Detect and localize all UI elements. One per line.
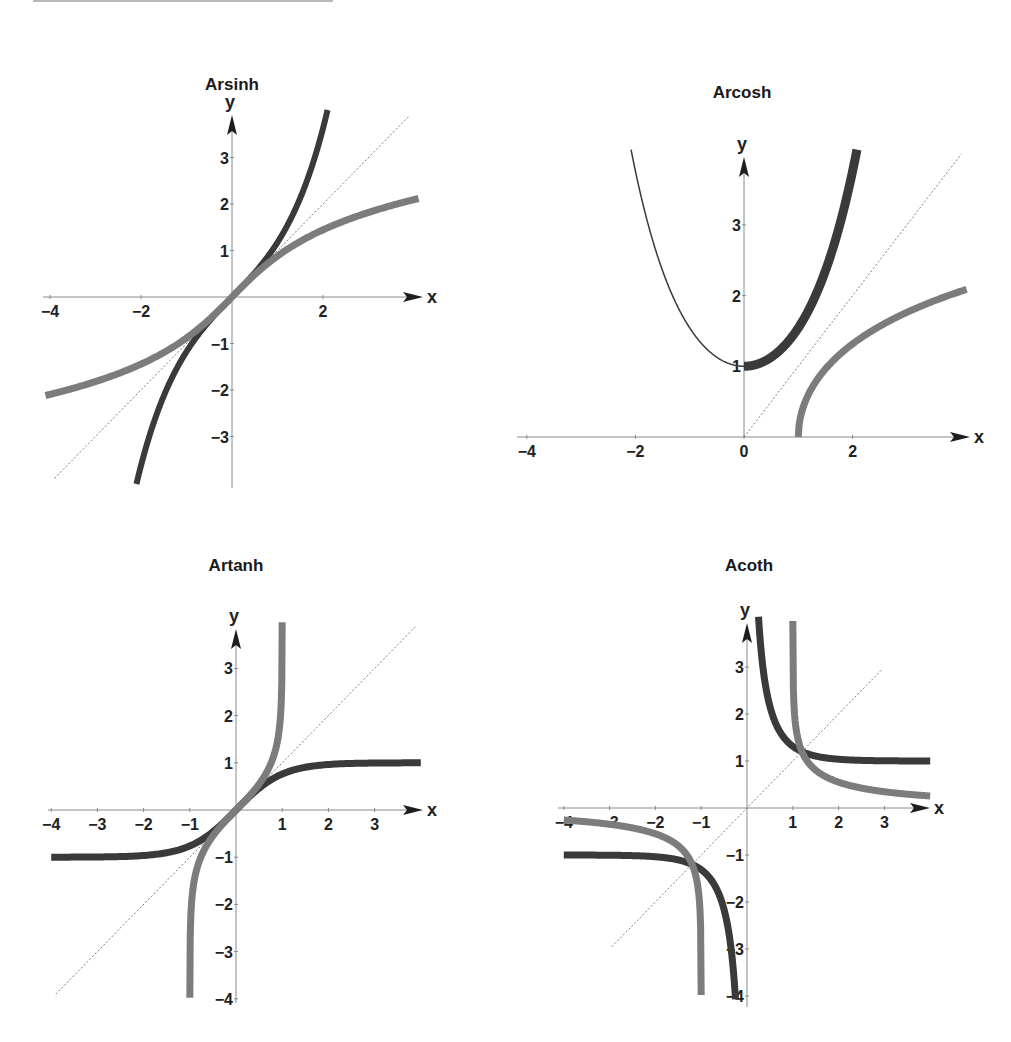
x-tick-label: 1 — [788, 814, 797, 831]
y-tick-label: 1 — [735, 753, 744, 770]
panel-title: Artanh — [209, 556, 264, 575]
y-tick-label: 3 — [732, 217, 741, 234]
curve-coth — [759, 617, 931, 761]
panel-artanh: xy−4−3−2−1123321−1−2−3−4Artanh — [42, 556, 437, 1008]
panel-title: Arsinh — [205, 75, 259, 94]
y-tick-label: −4 — [215, 991, 233, 1008]
y-tick-label: −1 — [211, 336, 229, 353]
y-tick-label: 1 — [224, 755, 233, 772]
x-tick-label: 2 — [324, 816, 333, 833]
curve-acoth — [564, 820, 701, 995]
y-tick-label: −1 — [726, 847, 744, 864]
x-tick-label: 2 — [848, 443, 857, 460]
y-axis-label: y — [740, 600, 750, 620]
y-tick-label: −3 — [215, 944, 233, 961]
y-tick-label: 2 — [220, 196, 229, 213]
y-tick-label: 1 — [220, 243, 229, 260]
y-tick-label: 3 — [220, 150, 229, 167]
figure-canvas: xy−4−22321−1−2−3Arsinh xy−4−202321Arcosh… — [0, 0, 1011, 1042]
curve-acosh — [798, 289, 966, 437]
panel-arsinh: xy−4−22321−1−2−3Arsinh — [41, 75, 437, 488]
x-tick-label: 0 — [740, 443, 749, 460]
x-tick-label: −2 — [134, 816, 152, 833]
x-tick-label: 3 — [370, 816, 379, 833]
x-axis-label: x — [427, 800, 437, 820]
x-axis-label: x — [934, 798, 944, 818]
panel-acoth: xy−4−3−2−1123321−1−2−3−4Acoth — [555, 556, 944, 1007]
x-tick-label: −1 — [692, 814, 710, 831]
y-tick-label: 2 — [224, 708, 233, 725]
x-tick-label: −4 — [42, 816, 60, 833]
x-tick-label: −4 — [41, 303, 59, 320]
x-tick-label: −3 — [88, 816, 106, 833]
panel-title: Arcosh — [713, 83, 772, 102]
x-axis-label: x — [974, 427, 984, 447]
curve-coth — [564, 855, 736, 999]
y-axis-label: y — [229, 606, 239, 626]
y-axis-label: y — [737, 134, 747, 154]
panel-title: Acoth — [725, 556, 773, 575]
y-tick-label: −1 — [215, 849, 233, 866]
x-tick-label: 2 — [834, 814, 843, 831]
diagonal-line — [744, 154, 961, 437]
y-tick-label: 2 — [735, 706, 744, 723]
x-tick-label: 2 — [319, 303, 328, 320]
curve-cosh — [631, 150, 744, 367]
x-tick-label: −1 — [181, 816, 199, 833]
y-tick-label: −2 — [211, 382, 229, 399]
y-axis-label: y — [225, 92, 235, 112]
panel-arcosh: xy−4−202321Arcosh — [517, 83, 984, 460]
x-tick-label: 3 — [880, 814, 889, 831]
x-tick-label: −4 — [518, 443, 536, 460]
x-tick-label: −2 — [626, 443, 644, 460]
x-tick-label: −2 — [132, 303, 150, 320]
y-tick-label: −3 — [211, 429, 229, 446]
y-tick-label: −2 — [726, 894, 744, 911]
y-tick-label: 2 — [732, 288, 741, 305]
y-tick-label: 3 — [224, 660, 233, 677]
x-axis-label: x — [427, 287, 437, 307]
curve-acoth — [793, 621, 930, 796]
y-tick-label: 3 — [735, 659, 744, 676]
curve-cosh — [744, 150, 857, 367]
y-tick-label: −2 — [215, 896, 233, 913]
x-tick-label: 1 — [278, 816, 287, 833]
